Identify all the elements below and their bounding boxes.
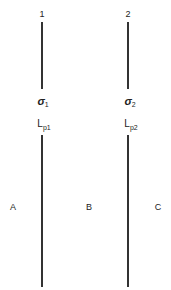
boundary-1-stress-label: σ1 (37, 95, 48, 111)
boundary-1-length-label: Lp1 (37, 118, 50, 134)
stress-subscript: 1 (45, 101, 49, 108)
boundary-2-stress-label: σ2 (124, 95, 135, 111)
region-c-label: C (155, 202, 162, 212)
stress-subscript: 2 (132, 101, 136, 108)
boundary-2-length-label: Lp2 (124, 118, 137, 134)
region-b-label: B (86, 202, 92, 212)
boundary-2-upper-line (127, 22, 129, 89)
boundary-1-lower-line (41, 135, 43, 287)
boundary-2-number: 2 (125, 9, 130, 19)
length-subscript: p2 (130, 124, 138, 131)
boundary-2-lower-line (127, 135, 129, 287)
region-a-label: A (10, 202, 16, 212)
boundary-1-number: 1 (39, 9, 44, 19)
length-subscript: p1 (43, 124, 51, 131)
boundary-1-upper-line (41, 22, 43, 89)
